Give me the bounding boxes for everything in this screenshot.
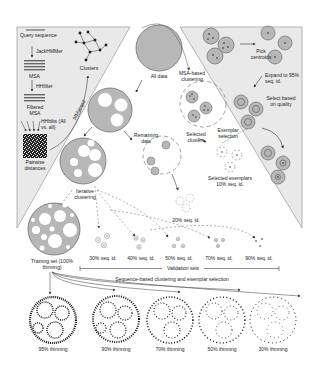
all-data-label: All data <box>145 74 173 80</box>
clusters-label: Clusters <box>76 66 102 72</box>
select-quality-label: Select based on quality <box>266 96 296 107</box>
thinning-90-label: 90% thinning <box>91 347 141 353</box>
thinning-inner <box>33 302 289 338</box>
pairwise-matrix-icon <box>23 134 47 158</box>
thinning-rings <box>30 296 296 343</box>
selected-clusters-label: Selected clusters <box>180 132 212 143</box>
msa-label: MSA <box>24 74 45 80</box>
validation-set-50: 50% seq. id. <box>160 256 198 262</box>
thinning-70-label: 70% thinning <box>145 347 195 353</box>
thinning-50-label: 50% thinning <box>197 347 247 353</box>
pick-centroids-label: Pick centroids <box>246 49 276 60</box>
query-sequence-label: Query sequence <box>20 33 50 39</box>
expand-label: Expand to 95% seq. id. <box>265 73 301 84</box>
hhfilter-label: HHfilter <box>36 84 53 90</box>
seq20-label: 20% seq. id. <box>168 218 204 224</box>
seq20-group <box>143 136 194 212</box>
jackhmmer-label: JackHMMer <box>36 49 63 55</box>
selected-exemplars-label: Selected exemplars 10% seq. id. <box>206 176 254 187</box>
remaining-data-circle <box>88 88 132 132</box>
filtered-msa-icon <box>24 94 45 101</box>
selected-exemplars-group <box>217 147 242 172</box>
training-set-label: Training set (100% thinning) <box>26 259 78 270</box>
sequence-clustering-caption: Sequence-based clustering and exemplar s… <box>102 277 242 283</box>
validation-set-70: 70% seq. id. <box>200 256 238 262</box>
figure: Query sequence JackHMMer MSA HHfilter Fi… <box>0 0 319 375</box>
thinning-95-label: 95% thinning <box>28 347 78 353</box>
validation-sets-label: Validation sets <box>162 266 204 272</box>
validation-dots <box>96 234 225 250</box>
all-data-circle <box>136 25 182 71</box>
hhblits-label: HHblits (All vs. all) <box>41 119 67 130</box>
validation-set-40: 40% seq. id. <box>122 256 160 262</box>
pairwise-distances-label: Pairwise distances <box>20 160 50 171</box>
filtered-msa-label: Filtered MSA <box>22 105 48 116</box>
iterative-clustering-label: Iterative clustering <box>70 189 100 200</box>
msa-based-clustering-label: MSA-based clustering <box>176 71 208 82</box>
exemplar-selection-label: Exemplar selection <box>212 128 244 139</box>
validation-set-90: 90% seq. id. <box>240 256 278 262</box>
remaining-data-label: Remaining data <box>130 133 162 144</box>
validation-set-30: 30% seq. id. <box>84 256 122 262</box>
thinning-30-label: 30% thinning <box>248 347 298 353</box>
